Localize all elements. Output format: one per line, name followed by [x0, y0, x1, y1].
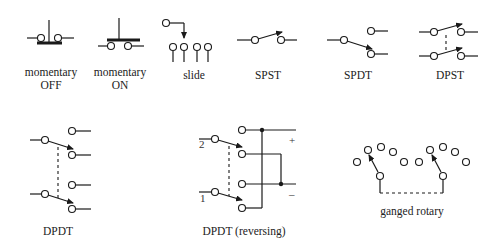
plus-terminal-label: + — [289, 134, 295, 146]
label-dpdt: DPDT — [43, 225, 73, 238]
momentary-on-symbol — [98, 18, 144, 50]
spst-symbol — [237, 32, 297, 44]
label-slide: slide — [183, 69, 205, 82]
dpst-symbol — [419, 24, 478, 60]
minus-terminal-label: – — [289, 188, 295, 200]
label-momentary-on-line2: ON — [94, 79, 146, 92]
dpdt-reversing-symbol — [199, 127, 296, 212]
momentary-off-symbol — [27, 20, 74, 43]
label-momentary-off: momentary OFF — [25, 66, 77, 92]
input-1-label: 1 — [200, 192, 206, 204]
label-dpdt-reversing: DPDT (reversing) — [202, 225, 285, 238]
slide-switch-symbol — [163, 20, 212, 63]
label-momentary-on-line1: momentary — [94, 66, 146, 79]
label-momentary-off-line1: momentary — [25, 66, 77, 79]
label-momentary-off-line2: OFF — [25, 79, 77, 92]
label-dpst: DPST — [436, 69, 464, 82]
label-spst: SPST — [255, 69, 281, 82]
input-2-label: 2 — [199, 138, 205, 150]
label-ganged-rotary: ganged rotary — [380, 205, 444, 218]
label-momentary-on: momentary ON — [94, 66, 146, 92]
ganged-rotary-symbol — [354, 144, 470, 194]
spdt-symbol — [327, 28, 388, 58]
dpdt-symbol — [30, 128, 91, 213]
label-spdt: SPDT — [344, 69, 372, 82]
